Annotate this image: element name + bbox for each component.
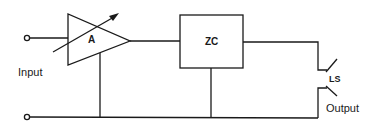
input-label: Input bbox=[18, 66, 42, 78]
amplifier-triangle bbox=[68, 14, 130, 65]
switch-blade-top bbox=[326, 59, 337, 72]
output-label: Output bbox=[326, 102, 359, 114]
schematic-lines bbox=[0, 0, 376, 128]
zc-label: ZC bbox=[205, 36, 218, 47]
input-terminal-top bbox=[24, 35, 29, 40]
switch-label: LS bbox=[329, 74, 341, 84]
switch-blade-bottom bbox=[326, 86, 337, 96]
circuit-diagram: A ZC LS Input Output bbox=[0, 0, 376, 128]
arrowhead-icon bbox=[109, 13, 119, 21]
input-terminal-bottom bbox=[24, 114, 29, 119]
amplifier-label: A bbox=[88, 34, 95, 45]
